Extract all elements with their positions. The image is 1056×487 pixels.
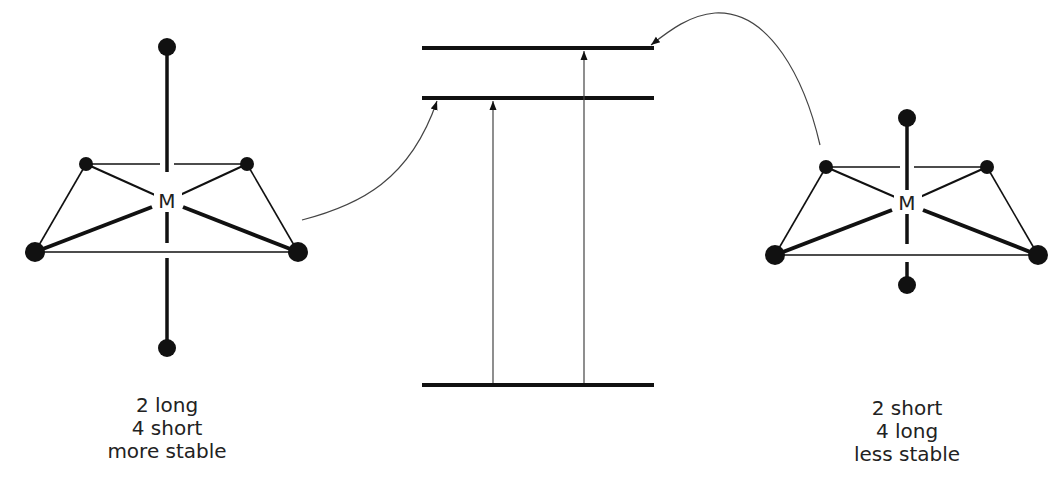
metal-label-left: M [158, 189, 175, 213]
energy-level-diagram [422, 48, 654, 385]
left-complex: M [25, 38, 308, 357]
side-edge-right [247, 164, 298, 252]
right-caption-line-2: 4 long [827, 420, 987, 443]
ligand-atom-back-left [79, 157, 93, 171]
ligand-atom-top [158, 38, 176, 56]
link-arrow-left-to-middle [302, 101, 437, 220]
link-arrow-right-to-upper [651, 13, 820, 145]
bond-back-right [920, 167, 987, 197]
ligand-atom-front-left [765, 245, 785, 265]
right-complex: M [765, 109, 1048, 294]
ligand-atom-back-right [240, 157, 254, 171]
bond-front-left [35, 207, 152, 252]
side-edge-left [775, 167, 826, 255]
ligand-atom-bottom [898, 276, 916, 294]
bond-back-left [86, 164, 155, 195]
right-caption-line-3: less stable [827, 443, 987, 466]
ligand-atom-bottom [158, 339, 176, 357]
side-edge-right [987, 167, 1038, 255]
bond-back-left [826, 167, 895, 197]
ligand-atom-back-right [980, 160, 994, 174]
metal-label-right: M [898, 191, 915, 215]
ligand-atom-front-left [25, 242, 45, 262]
bond-front-right [183, 207, 298, 252]
side-edge-left [35, 164, 86, 252]
right-caption: 2 short 4 long less stable [827, 397, 987, 466]
ligand-atom-front-right [1028, 245, 1048, 265]
right-caption-line-1: 2 short [827, 397, 987, 420]
left-caption: 2 long 4 short more stable [87, 394, 247, 463]
left-caption-line-3: more stable [87, 440, 247, 463]
bond-front-right [923, 210, 1038, 255]
ligand-atom-back-left [819, 160, 833, 174]
left-caption-line-2: 4 short [87, 417, 247, 440]
bond-front-left [775, 210, 892, 255]
left-caption-line-1: 2 long [87, 394, 247, 417]
ligand-atom-front-right [288, 242, 308, 262]
bond-back-right [180, 164, 247, 195]
ligand-atom-top [898, 109, 916, 127]
